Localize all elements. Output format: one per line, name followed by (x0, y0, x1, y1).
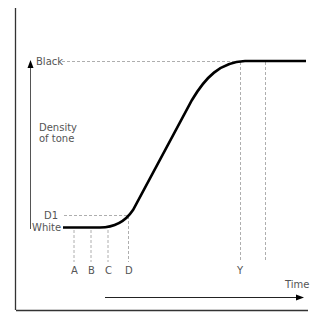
black-label: Black (36, 56, 63, 67)
of-tone-label: of tone (39, 133, 74, 144)
marker-d: D (125, 265, 133, 276)
white-label: White (32, 222, 61, 233)
d1-label: D1 (44, 210, 58, 221)
density-label: Density (39, 122, 77, 133)
density-curve (63, 61, 306, 228)
marker-a: A (71, 265, 78, 276)
time-label: Time (284, 279, 309, 290)
marker-b: B (88, 265, 95, 276)
tone-density-diagram: Black Density of tone D1 White A B C D Y… (0, 0, 316, 321)
marker-y: Y (236, 265, 244, 276)
marker-c: C (105, 265, 112, 276)
guide-lines (62, 62, 266, 263)
